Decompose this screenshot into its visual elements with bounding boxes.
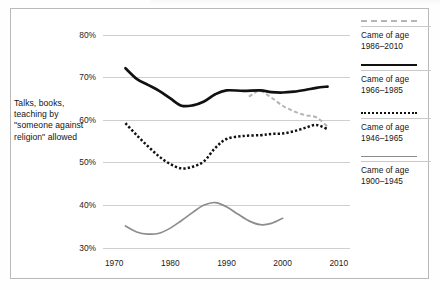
legend-swatch-icon [361,156,417,157]
legend-divider [361,70,431,71]
legend-label: Came of age1900–1945 [361,165,431,186]
plot-area: 30%40%50%60%70%80% 19701980199020002010 [103,26,350,252]
legend-entry[interactable]: Came of age1900–1945 [361,156,431,186]
y-tick-label: 40% [79,200,96,210]
y-tick-label: 50% [79,157,96,167]
legend-label: Came of age1946–1965 [361,122,431,143]
legend-divider [361,161,431,162]
x-tick-label: 2010 [329,258,348,268]
series-line-came-of-age-1986-2010 [249,91,328,127]
x-tick-label: 1970 [105,258,124,268]
top-edge-artifact [150,0,440,6]
chart-figure: Talks, books, teaching by "someone again… [0,0,440,290]
x-tick-label: 1990 [217,258,236,268]
legend-label: Came of age1986–2010 [361,30,431,51]
y-tick-label: 30% [79,243,96,253]
legend-label: Came of age1966–1985 [361,74,431,95]
y-tick-label: 60% [79,115,96,125]
series-lines-group [103,26,350,252]
legend-swatch-icon [361,112,417,114]
legend-swatch-icon [361,64,417,66]
series-line-came-of-age-1946-1965 [125,123,327,168]
y-tick-label: 80% [79,30,96,40]
legend-divider [361,118,431,119]
y-tick-label: 70% [79,72,96,82]
legend-divider [361,26,431,27]
legend-entry[interactable]: Came of age1946–1965 [361,112,431,143]
legend-swatch-icon [361,20,417,22]
x-tick-label: 1980 [161,258,180,268]
legend-entry[interactable]: Came of age1986–2010 [361,20,431,51]
x-tick-label: 2000 [273,258,292,268]
legend-entry[interactable]: Came of age1966–1985 [361,64,431,95]
series-line-came-of-age-1966-1985 [125,68,327,106]
y-axis-label: Talks, books, teaching by "someone again… [14,98,86,143]
series-line-came-of-age-1900-1945 [125,202,282,234]
